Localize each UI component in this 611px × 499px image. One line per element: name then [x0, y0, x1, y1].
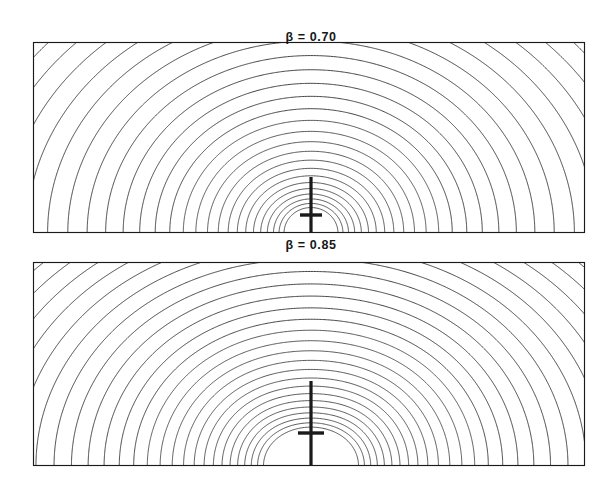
source-crossbar: [298, 431, 324, 434]
source-bar: [309, 381, 312, 466]
contour-figure: β = 0.70 β = 0.85: [0, 0, 611, 499]
panel-bottom-label: β = 0.85: [285, 238, 336, 252]
source-bar: [309, 177, 312, 233]
panel-top-label: β = 0.70: [285, 30, 336, 44]
source-crossbar: [300, 213, 322, 216]
